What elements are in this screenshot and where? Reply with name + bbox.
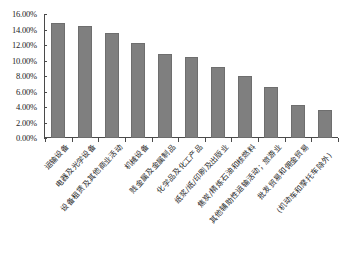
bar-slot (311, 14, 338, 138)
bar[interactable] (238, 76, 252, 138)
x-tick-mark (205, 138, 206, 142)
bar[interactable] (131, 43, 145, 138)
bar[interactable] (291, 105, 305, 138)
y-tick-label: 10.00% (12, 56, 37, 65)
x-tick-mark (72, 138, 73, 142)
y-tick-label: 12.00% (12, 41, 37, 50)
chart-figure: 0.00%2.00%4.00%6.00%8.00%10.00%12.00%14.… (0, 0, 355, 260)
y-tick-mark (44, 107, 47, 108)
x-axis-label: 批发贸易和佣金贸易 (256, 142, 311, 202)
y-tick-label: 16.00% (12, 10, 37, 19)
x-tick-mark (285, 138, 286, 142)
bar-slot (152, 14, 179, 138)
x-axis: 运输设备电器及光学设备设备租赁及其他商业活动机械设备贱金属及金属制品化学品及化工… (0, 142, 355, 242)
x-tick-mark (338, 138, 339, 142)
bar-slot (205, 14, 232, 138)
y-tick-mark (44, 61, 47, 62)
x-tick-mark (152, 138, 153, 142)
bar[interactable] (78, 26, 92, 138)
x-tick-mark (98, 138, 99, 142)
x-tick-mark (45, 138, 46, 142)
bar[interactable] (51, 23, 65, 138)
bar-slot (125, 14, 152, 138)
y-tick-label: 14.00% (12, 25, 37, 34)
y-tick-mark (44, 14, 47, 15)
y-axis: 0.00%2.00%4.00%6.00%8.00%10.00%12.00%14.… (0, 14, 42, 138)
x-tick-mark (125, 138, 126, 142)
x-tick-mark (258, 138, 259, 142)
y-tick-mark (44, 45, 47, 46)
x-tick-mark (311, 138, 312, 142)
y-tick-mark (44, 30, 47, 31)
bar[interactable] (264, 87, 278, 138)
bar-slot (72, 14, 99, 138)
y-tick-label: 8.00% (16, 72, 37, 81)
y-tick-mark (44, 92, 47, 93)
bar-slot (258, 14, 285, 138)
x-tick-mark (231, 138, 232, 142)
y-tick-mark (44, 76, 47, 77)
y-tick-label: 2.00% (16, 118, 37, 127)
x-tick-mark (178, 138, 179, 142)
bar[interactable] (158, 54, 172, 138)
y-tick-mark (44, 123, 47, 124)
bar-slot (45, 14, 72, 138)
bars-layer (45, 14, 338, 138)
y-tick-label: 4.00% (16, 103, 37, 112)
bar-slot (231, 14, 258, 138)
bar[interactable] (318, 110, 332, 138)
bar[interactable] (185, 57, 199, 138)
bar[interactable] (105, 33, 119, 138)
y-tick-label: 0.00% (16, 134, 37, 143)
x-axis-label: (机动车和摩托车除外) (275, 151, 334, 215)
bar-slot (178, 14, 205, 138)
bar[interactable] (211, 67, 225, 138)
bar-slot (98, 14, 125, 138)
bar-slot (285, 14, 312, 138)
y-tick-label: 6.00% (16, 87, 37, 96)
